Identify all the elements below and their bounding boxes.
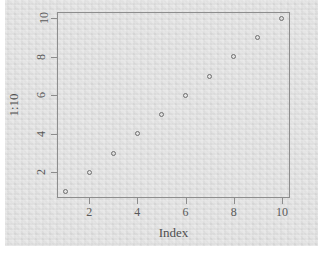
x-axis-tick bbox=[234, 198, 235, 204]
data-point bbox=[111, 151, 116, 156]
y-axis-tick-label: 6 bbox=[35, 92, 47, 98]
x-axis-tick bbox=[89, 198, 90, 204]
x-axis-tick-label: 8 bbox=[231, 206, 237, 218]
y-axis-label: 1:10 bbox=[7, 93, 20, 116]
data-point bbox=[183, 93, 188, 98]
x-axis-tick-label: 4 bbox=[134, 206, 140, 218]
y-axis-tick bbox=[51, 18, 57, 19]
y-axis-tick bbox=[51, 57, 57, 58]
x-axis-tick bbox=[186, 198, 187, 204]
x-axis-tick bbox=[137, 198, 138, 204]
x-axis-tick-label: 10 bbox=[276, 206, 288, 218]
y-axis-tick-label: 8 bbox=[35, 54, 47, 60]
x-axis-tick-label: 2 bbox=[86, 206, 92, 218]
y-axis-tick-label: 10 bbox=[38, 12, 50, 24]
y-axis-tick bbox=[51, 95, 57, 96]
data-point bbox=[63, 189, 68, 194]
data-point bbox=[207, 74, 212, 79]
x-axis-label: Index bbox=[57, 226, 290, 239]
x-axis-tick bbox=[282, 198, 283, 204]
x-axis-tick-label: 6 bbox=[183, 206, 189, 218]
data-point bbox=[87, 170, 92, 175]
plot-figure: 246810246810 Index 1:10 bbox=[0, 0, 318, 259]
y-axis-tick-label: 2 bbox=[35, 169, 47, 175]
plot-frame bbox=[57, 12, 290, 198]
y-axis-tick bbox=[51, 172, 57, 173]
y-axis-tick-label: 4 bbox=[35, 131, 47, 137]
y-axis-tick bbox=[51, 134, 57, 135]
